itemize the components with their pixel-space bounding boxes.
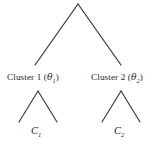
root-right-edge [78,4,121,65]
leaf-1-subscript: 1 [38,131,41,138]
cluster-2-right-edge [121,91,140,122]
cluster-1-label: Cluster 1 (θ1) [7,72,59,84]
cluster-1-label-prefix: Cluster 1 ( [7,72,47,82]
leaf-2-subscript: 2 [121,131,124,138]
cluster-1-right-edge [38,91,57,122]
cluster-1-label-suffix: ) [56,72,59,82]
cluster-2-label-prefix: Cluster 2 ( [91,72,131,82]
leaf-1-label: C1 [31,126,42,139]
cluster-2-label-suffix: ) [140,72,143,82]
cluster-tree-diagram: Cluster 1 (θ1) Cluster 2 (θ2) C1 C2 [0,0,159,148]
leaf-2-label: C2 [114,126,125,139]
cluster-2-label: Cluster 2 (θ2) [91,72,143,84]
cluster-1-left-edge [19,91,38,122]
cluster-2-left-edge [102,91,121,122]
root-left-edge [35,4,78,65]
